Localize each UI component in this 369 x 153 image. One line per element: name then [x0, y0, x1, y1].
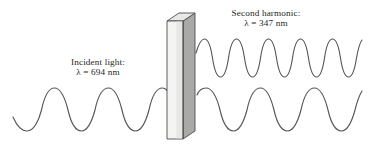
- second-harmonic-wavelength: λ = 347 nm: [207, 18, 325, 28]
- second-harmonic-label-line1: Second harmonic:: [207, 8, 325, 18]
- nonlinear-crystal: [167, 13, 195, 139]
- crystal-front-shading: [177, 22, 183, 139]
- incident-light-label: Incident light: λ = 694 nm: [44, 57, 152, 78]
- incident-light-label-line1: Incident light:: [44, 57, 152, 67]
- incident-light-wavelength: λ = 694 nm: [44, 67, 152, 77]
- transmitted-fundamental-wave: [197, 88, 362, 131]
- second-harmonic-generation-figure: Incident light: λ = 694 nm Second harmon…: [0, 0, 369, 153]
- second-harmonic-wave: [196, 39, 362, 77]
- crystal-side-face: [183, 13, 195, 139]
- second-harmonic-label: Second harmonic: λ = 347 nm: [207, 8, 325, 29]
- incident-wave: [13, 88, 170, 131]
